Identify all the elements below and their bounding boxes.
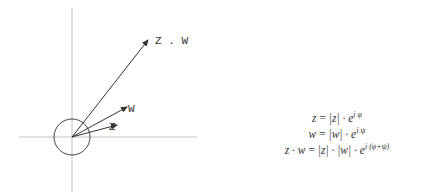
formula-w-exp: i ψ	[356, 126, 365, 135]
formula-zw-lhs: z · w	[285, 144, 306, 156]
label-z: Z	[109, 121, 116, 133]
vector-w	[72, 107, 127, 137]
complex-plane-diagram: Z W Z . W	[0, 0, 250, 192]
formula-z-lhs: z	[312, 112, 316, 124]
formula-block: z = |z| · ei φ w = |w| · ei ψ z · w = |z…	[250, 110, 424, 158]
formula-zw-exp: i (φ+ψ)	[365, 142, 389, 151]
formula-z: z = |z| · ei φ	[250, 110, 424, 126]
formula-z-exp: i φ	[353, 110, 362, 119]
label-zw: Z . W	[155, 35, 188, 47]
formula-w-rhs: |w| · e	[328, 128, 356, 140]
label-w: W	[128, 103, 135, 115]
formula-z-rhs: |z| · e	[329, 112, 354, 124]
formula-w: w = |w| · ei ψ	[250, 126, 424, 142]
formula-w-lhs: w	[309, 128, 317, 140]
formula-zw: z · w = |z| · |w| · ei (φ+ψ)	[250, 142, 424, 158]
formula-zw-rhs: |z| · |w| · e	[318, 144, 365, 156]
